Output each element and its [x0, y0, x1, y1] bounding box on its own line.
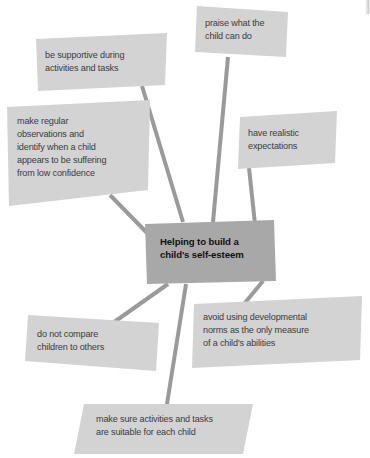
connector-do-not-compare: [110, 284, 168, 325]
branch-node-avoid-using-norms[interactable]: avoid using developmentalnorms as the on…: [192, 296, 362, 368]
branch-node-have-realistic-expectations[interactable]: have realisticexpectations: [238, 111, 337, 169]
connector-have-realistic-expectations: [249, 168, 255, 224]
branch-node-praise[interactable]: praise what thechild can do: [195, 6, 288, 57]
connector-suitable-activities: [167, 284, 186, 404]
branch-node-be-supportive-shape: [36, 33, 167, 91]
branch-node-do-not-compare[interactable]: do not comparechildren to others: [25, 315, 159, 371]
branch-node-be-supportive[interactable]: be supportive duringactivities and tasks: [36, 33, 167, 91]
mindmap-canvas: praise what thechild can dobe supportive…: [0, 0, 370, 458]
branch-node-have-realistic-expectations-shape: [238, 111, 337, 169]
branch-node-suitable-activities[interactable]: make sure activities and tasksare suitab…: [74, 404, 253, 454]
center-node[interactable]: Helping to build achild's self-esteem: [145, 220, 276, 284]
scan-edge-artifact: [365, 0, 370, 14]
mindmap-diagram: praise what thechild can dobe supportive…: [0, 0, 370, 458]
branch-node-make-regular-observations[interactable]: make regularobservations andidentify whe…: [7, 100, 150, 206]
connector-praise: [213, 57, 228, 222]
connector-avoid-using-norms: [244, 281, 263, 304]
node-group: praise what thechild can dobe supportive…: [7, 6, 362, 454]
connector-make-regular-observations: [110, 195, 150, 236]
